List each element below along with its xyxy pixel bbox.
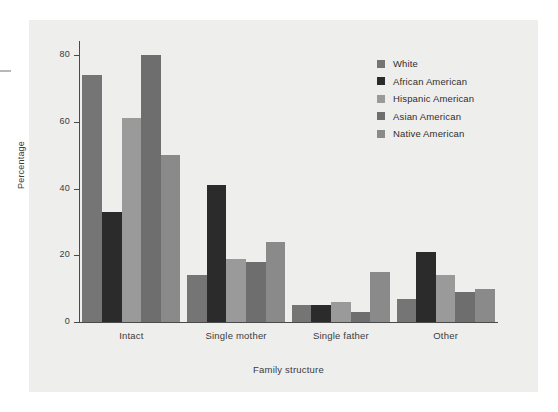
- x-axis-line: [79, 322, 498, 323]
- bar-series-layer: [0, 0, 558, 322]
- figure-canvas: 020406080 Percentage IntactSingle mother…: [0, 0, 558, 412]
- legend-swatch-icon: [377, 60, 385, 68]
- legend-item: White: [377, 55, 527, 73]
- bar: [207, 185, 227, 322]
- legend-item-label: Native American: [393, 128, 464, 139]
- bar: [266, 242, 286, 322]
- legend-swatch-icon: [377, 95, 385, 103]
- x-tick-label: Intact: [71, 330, 191, 341]
- bar: [416, 252, 436, 322]
- legend-item: Native American: [377, 125, 527, 143]
- bar: [455, 292, 475, 322]
- bar: [141, 55, 161, 322]
- bar: [226, 259, 246, 322]
- bar: [161, 155, 181, 322]
- y-tick-mark: [74, 322, 79, 323]
- legend-item-label: Asian American: [393, 111, 461, 122]
- x-tick-label: Single father: [281, 330, 401, 341]
- bar: [246, 262, 266, 322]
- bar: [370, 272, 390, 322]
- plot-area: 020406080 Percentage IntactSingle mother…: [0, 0, 558, 412]
- bar: [82, 75, 102, 322]
- bar: [102, 212, 122, 322]
- x-tick-label: Single mother: [176, 330, 296, 341]
- legend-swatch-icon: [377, 112, 385, 120]
- bar: [292, 305, 312, 322]
- x-tick-label: Other: [386, 330, 506, 341]
- legend-item-label: White: [393, 58, 418, 69]
- legend-swatch-icon: [377, 130, 385, 138]
- x-axis-title: Family structure: [79, 364, 498, 375]
- bar: [331, 302, 351, 322]
- bar: [122, 118, 142, 322]
- bar: [351, 312, 371, 322]
- bar: [187, 275, 207, 322]
- legend-item-label: Hispanic American: [393, 93, 474, 104]
- legend: WhiteAfrican AmericanHispanic AmericanAs…: [377, 55, 527, 143]
- bar: [397, 299, 417, 322]
- legend-item: Hispanic American: [377, 90, 527, 108]
- legend-item: Asian American: [377, 108, 527, 126]
- bar: [475, 289, 495, 322]
- legend-item-label: African American: [393, 76, 467, 87]
- bar: [311, 305, 331, 322]
- bar: [436, 275, 456, 322]
- legend-item: African American: [377, 73, 527, 91]
- legend-swatch-icon: [377, 77, 385, 85]
